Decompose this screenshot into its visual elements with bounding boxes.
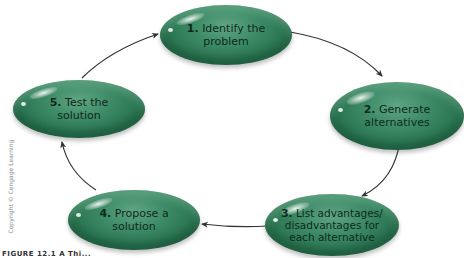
step-5-test-solution: 5. Test the solution	[13, 80, 145, 138]
step-2-label: 2. Generate alternatives	[364, 103, 431, 129]
figure-caption: FIGURE 12.1 A Thi...	[2, 250, 91, 258]
step-2-generate-alternatives: 2. Generate alternatives	[330, 82, 464, 150]
arrow-3-to-4	[202, 224, 268, 227]
arrow-1-to-2	[290, 32, 382, 76]
arrow-4-to-5	[62, 142, 96, 190]
highlight-dot	[76, 213, 81, 217]
highlight-dot	[273, 218, 278, 222]
step-1-identify-problem: 1. Identify the problem	[160, 5, 292, 65]
step-3-list-advantages: 3. List advantages/ disadvantages for ea…	[265, 194, 399, 256]
step-4-propose-solution: 4. Propose a solution	[68, 190, 200, 250]
highlight-dot	[338, 108, 343, 112]
highlight-dot	[21, 102, 26, 106]
step-1-label: 1. Identify the problem	[187, 22, 265, 48]
copyright-notice: Copyright © Cengage Learning	[7, 154, 14, 234]
step-4-label: 4. Propose a solution	[99, 207, 168, 233]
arrow-5-to-1	[82, 34, 158, 78]
step-3-label: 3. List advantages/ disadvantages for ea…	[281, 207, 382, 243]
step-5-label: 5. Test the solution	[50, 96, 109, 122]
highlight-dot	[168, 28, 173, 32]
